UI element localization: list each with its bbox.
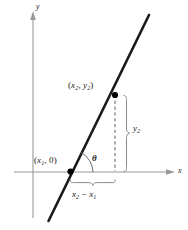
y-axis-group — [30, 11, 36, 218]
point-lower-dot — [67, 168, 73, 174]
x-axis-arrowhead — [166, 169, 175, 175]
rise-brace — [124, 96, 130, 172]
run-x1-subscript: 1 — [93, 194, 96, 200]
point-upper-dot — [112, 92, 118, 98]
point-upper-label: (x2, y2) — [68, 81, 93, 91]
plotted-line — [49, 15, 150, 221]
run-label: x2 − x1 — [72, 190, 96, 200]
figure-container: y x (x2, y2) (x1, 0) θ y2 x2 − x1 — [0, 0, 188, 230]
y-axis-arrowhead — [30, 11, 36, 20]
point-lower-label: (x1, 0) — [34, 156, 57, 166]
x-axis-group — [14, 169, 175, 175]
run-minus-sign: − — [79, 189, 89, 199]
rise-subscript: 2 — [137, 128, 140, 134]
paren-close: ) — [90, 80, 93, 90]
paren-close-lower: ) — [54, 155, 57, 165]
rise-label: y2 — [133, 124, 140, 134]
run-brace — [71, 180, 116, 186]
x-axis-label: x — [178, 167, 182, 175]
angle-theta-label: θ — [92, 154, 97, 163]
y-axis-label: y — [36, 3, 40, 11]
